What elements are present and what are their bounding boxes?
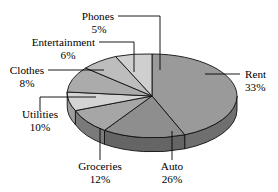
label-auto-name: Auto (161, 160, 184, 172)
label-clothes-name: Clothes (10, 64, 44, 76)
pie-chart: Phones 5% Entertainment 6% Clothes 8% Ut… (0, 0, 278, 192)
label-groceries-pct: 12% (90, 173, 111, 185)
label-phones-name: Phones (82, 10, 114, 22)
label-utilities-name: Utilities (22, 108, 58, 120)
label-rent-name: Rent (245, 68, 267, 80)
label-groceries-name: Groceries (78, 160, 121, 172)
pie-slices (67, 54, 237, 138)
pie-chart-canvas: Phones 5% Entertainment 6% Clothes 8% Ut… (0, 0, 278, 192)
label-clothes-pct: 8% (20, 77, 35, 89)
label-entertainment-pct: 6% (61, 49, 76, 61)
label-utilities-pct: 10% (30, 121, 51, 133)
label-rent-pct: 33% (245, 81, 266, 93)
label-phones-pct: 5% (92, 23, 107, 35)
label-auto-pct: 26% (162, 173, 183, 185)
label-entertainment-name: Entertainment (32, 36, 96, 48)
